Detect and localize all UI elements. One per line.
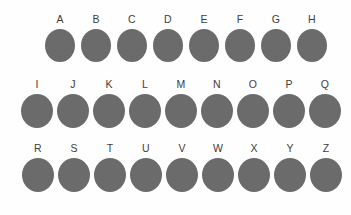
dot-cell[interactable]: D [153, 14, 183, 62]
dot-label: Q [321, 79, 329, 90]
dot-label: J [70, 79, 75, 90]
dot-cell[interactable]: A [45, 14, 75, 62]
dot-cell[interactable]: Q [309, 79, 341, 128]
dot-label: F [237, 14, 244, 25]
dot-cell[interactable]: N [201, 79, 233, 128]
circle-icon[interactable] [237, 94, 269, 128]
dot-cell[interactable]: Y [274, 143, 306, 192]
dot-label: M [177, 79, 186, 90]
dot-label: I [35, 79, 38, 90]
dot-label: Y [286, 143, 293, 154]
dot-cell[interactable]: T [94, 143, 126, 192]
circle-icon[interactable] [93, 94, 125, 128]
dot-grid-canvas: A B C D E F G H [0, 0, 351, 215]
dot-cell[interactable]: I [21, 79, 53, 128]
dot-cell[interactable]: F [225, 14, 255, 62]
dot-label: K [105, 79, 112, 90]
dot-cell[interactable]: V [166, 143, 198, 192]
circle-icon[interactable] [81, 29, 111, 62]
dot-row-2: I J K L M N O P [21, 79, 341, 128]
dot-cell[interactable]: H [297, 14, 327, 62]
dot-label: H [308, 14, 316, 25]
circle-icon[interactable] [117, 29, 147, 62]
circle-icon[interactable] [189, 29, 219, 62]
dot-cell[interactable]: L [129, 79, 161, 128]
dot-label: U [142, 143, 150, 154]
dot-cell[interactable]: P [273, 79, 305, 128]
dot-label: T [107, 143, 114, 154]
dot-cell[interactable]: R [22, 143, 54, 192]
circle-icon[interactable] [297, 29, 327, 62]
dot-label: R [34, 143, 42, 154]
dot-label: V [178, 143, 185, 154]
dot-label: E [200, 14, 207, 25]
dot-row-1: A B C D E F G H [45, 14, 327, 62]
dot-label: G [272, 14, 280, 25]
dot-label: B [92, 14, 99, 25]
dot-cell[interactable]: S [58, 143, 90, 192]
circle-icon[interactable] [57, 94, 89, 128]
circle-icon[interactable] [261, 29, 291, 62]
circle-icon[interactable] [129, 94, 161, 128]
dot-row-3: R S T U V W X Y [22, 143, 342, 192]
circle-icon[interactable] [238, 158, 270, 192]
circle-icon[interactable] [165, 94, 197, 128]
dot-cell[interactable]: M [165, 79, 197, 128]
circle-icon[interactable] [21, 94, 53, 128]
circle-icon[interactable] [202, 158, 234, 192]
circle-icon[interactable] [130, 158, 162, 192]
dot-cell[interactable]: G [261, 14, 291, 62]
dot-label: W [213, 143, 223, 154]
dot-label: D [164, 14, 172, 25]
dot-label: C [128, 14, 136, 25]
dot-cell[interactable]: K [93, 79, 125, 128]
dot-cell[interactable]: C [117, 14, 147, 62]
circle-icon[interactable] [94, 158, 126, 192]
dot-cell[interactable]: Z [310, 143, 342, 192]
circle-icon[interactable] [225, 29, 255, 62]
dot-cell[interactable]: J [57, 79, 89, 128]
dot-label: L [142, 79, 148, 90]
dot-cell[interactable]: W [202, 143, 234, 192]
dot-cell[interactable]: O [237, 79, 269, 128]
circle-icon[interactable] [166, 158, 198, 192]
dot-label: P [285, 79, 292, 90]
circle-icon[interactable] [22, 158, 54, 192]
dot-label: S [70, 143, 77, 154]
circle-icon[interactable] [153, 29, 183, 62]
dot-label: Z [323, 143, 330, 154]
dot-label: A [56, 14, 63, 25]
dot-label: X [250, 143, 257, 154]
circle-icon[interactable] [309, 94, 341, 128]
circle-icon[interactable] [45, 29, 75, 62]
circle-icon[interactable] [310, 158, 342, 192]
dot-cell[interactable]: X [238, 143, 270, 192]
dot-label: O [249, 79, 257, 90]
circle-icon[interactable] [58, 158, 90, 192]
circle-icon[interactable] [273, 94, 305, 128]
dot-label: N [213, 79, 221, 90]
circle-icon[interactable] [274, 158, 306, 192]
circle-icon[interactable] [201, 94, 233, 128]
dot-cell[interactable]: B [81, 14, 111, 62]
dot-cell[interactable]: E [189, 14, 219, 62]
dot-cell[interactable]: U [130, 143, 162, 192]
